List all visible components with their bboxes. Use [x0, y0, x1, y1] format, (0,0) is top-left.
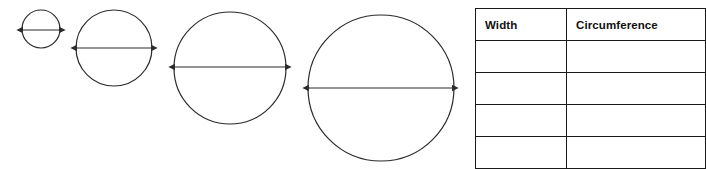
- table-header-row: Width Circumference: [476, 9, 706, 41]
- circle-outline-1: [22, 10, 60, 48]
- cell-circumference[interactable]: [567, 105, 706, 137]
- column-header-circumference: Circumference: [567, 9, 706, 41]
- circle-outline-3: [174, 12, 286, 124]
- cell-circumference[interactable]: [567, 41, 706, 73]
- cell-width[interactable]: [476, 105, 567, 137]
- circle-figure-4: [308, 15, 454, 161]
- circle-figure-1: [22, 10, 60, 48]
- table-row: [476, 73, 706, 105]
- table-row: [476, 137, 706, 169]
- table-row: [476, 105, 706, 137]
- cell-width[interactable]: [476, 41, 567, 73]
- table-row: [476, 41, 706, 73]
- cell-width[interactable]: [476, 73, 567, 105]
- cell-circumference[interactable]: [567, 137, 706, 169]
- cell-circumference[interactable]: [567, 73, 706, 105]
- circle-figure-3: [174, 12, 286, 124]
- width-circumference-table: Width Circumference: [475, 8, 706, 169]
- circle-figure-2: [76, 10, 152, 86]
- column-header-width: Width: [476, 9, 567, 41]
- cell-width[interactable]: [476, 137, 567, 169]
